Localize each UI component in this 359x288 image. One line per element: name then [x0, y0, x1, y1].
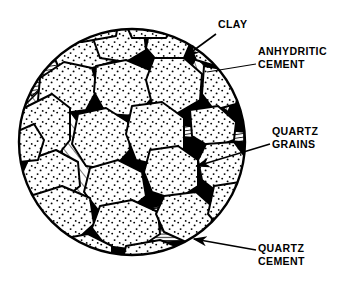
thin-section-circle [10, 20, 250, 272]
label-quartz-grains: QUARTZ GRAINS [272, 125, 318, 151]
label-quartz-cement: QUARTZ CEMENT [258, 242, 305, 268]
leader-quartz-cement [194, 239, 256, 250]
label-clay: CLAY [218, 18, 247, 31]
label-anhydritic-cement: ANHYDRITIC CEMENT [258, 45, 327, 71]
quartz-grains [10, 20, 250, 272]
